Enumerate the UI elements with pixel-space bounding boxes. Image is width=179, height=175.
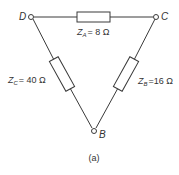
impedance-za-label: ZA= 8 Ω (76, 27, 110, 38)
node-d-terminal (29, 15, 34, 20)
node-c-label: C (161, 11, 169, 22)
node-c-terminal (154, 15, 159, 20)
figure-caption: (a) (89, 153, 100, 163)
node-d-label: D (19, 11, 26, 22)
wire-zc-b (70, 88, 92, 128)
impedance-zc-resistor (49, 57, 74, 92)
wire-c-zb (134, 19, 155, 60)
node-b-label: B (99, 129, 106, 140)
wire-zb-b (96, 88, 118, 128)
impedance-za-resistor (77, 12, 110, 22)
impedance-zb-label: ZB=16 Ω (137, 76, 173, 87)
impedance-zc-label: ZC= 40 Ω (7, 75, 46, 86)
impedance-zb-resistor (113, 57, 138, 92)
delta-circuit-diagram: D C B ZA= 8 Ω ZC= 40 Ω ZB=16 Ω (a) (0, 0, 179, 175)
node-b-terminal (92, 129, 97, 134)
wire-d-zc (33, 19, 54, 60)
